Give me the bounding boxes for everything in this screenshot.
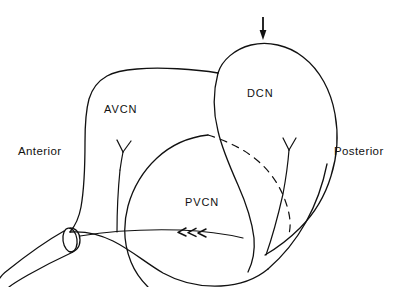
region-label-pvcn: PVCN [185, 197, 219, 208]
dcn-ventral-border [214, 73, 254, 272]
auditory-nerve-stump [0, 227, 80, 287]
dcn-outline [218, 44, 337, 256]
orientation-label-posterior: Posterior [334, 146, 384, 158]
region-label-dcn: DCN [247, 88, 274, 99]
diagram-canvas [0, 0, 403, 287]
ventral-outer-border [70, 232, 268, 286]
occluded-boundary-dashed [208, 135, 290, 237]
down-arrow-icon [260, 17, 267, 40]
posterior-inferior-border [268, 164, 327, 269]
fiber-arrowheads [178, 228, 206, 237]
cochlear-nucleus-diagram: AVCN DCN PVCN Anterior Posterior [0, 0, 403, 287]
region-label-avcn: AVCN [104, 104, 137, 115]
pvcn-boundary [125, 135, 208, 287]
avcn-branching-fiber [117, 140, 131, 232]
orientation-label-anterior: Anterior [18, 146, 61, 158]
dcn-branching-fiber [266, 138, 296, 255]
